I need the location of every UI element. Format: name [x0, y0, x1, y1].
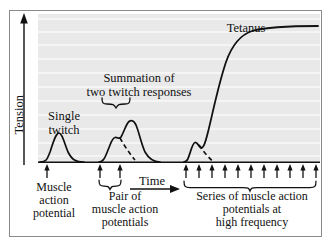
stimulus-arrow-series-1 — [183, 164, 188, 178]
stimulus-arrow-series-3 — [209, 164, 214, 178]
x-axis-label: Time — [134, 175, 170, 189]
stimulus-arrow-single — [44, 164, 49, 178]
stimulus-arrow-pair-2 — [117, 164, 122, 178]
curve-tetanus-dashed-decay — [199, 145, 213, 162]
single-twitch-label: Single twitch — [38, 110, 90, 137]
summation-label: Summation of two twitch responses — [74, 72, 204, 99]
stimulus-arrow-series-6 — [248, 164, 253, 178]
stimulus-arrow-pair-1 — [97, 164, 102, 178]
stimulus-arrow-series-5 — [235, 164, 240, 178]
curve-summation-dashed-decay — [120, 138, 135, 160]
muscle-action-potential-label: Muscle action potential — [21, 181, 87, 220]
stimulus-arrow-series-8 — [274, 164, 279, 178]
stimulus-arrow-series-7 — [261, 164, 266, 178]
stimulus-arrow-series-2 — [196, 164, 201, 178]
stimulus-arrow-series-9 — [287, 164, 292, 178]
y-axis-label: Tension — [13, 85, 27, 145]
tetanus-label: Tetanus — [216, 22, 276, 36]
stimulus-arrow-series-10 — [300, 164, 305, 178]
series-of-muscle-action-potentials-label: Series of muscle action potentials at hi… — [178, 190, 326, 229]
curve-summation — [99, 121, 160, 162]
stimulus-arrow-series-4 — [222, 164, 227, 178]
curve-single-twitch — [40, 133, 84, 162]
tension-vs-time-figure: Tension Single twitch Summation of two t… — [0, 0, 335, 249]
stimulus-arrow-series-11 — [313, 164, 318, 178]
curve-tetanus — [184, 26, 318, 162]
summation-brace — [102, 98, 130, 108]
pair-of-muscle-action-potentials-label: Pair of muscle action potentials — [82, 190, 168, 229]
